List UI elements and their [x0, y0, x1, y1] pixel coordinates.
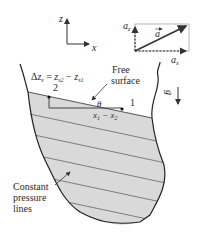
free-surface-label-line2: surface [111, 75, 140, 86]
z-axis-label: z [58, 13, 63, 24]
free-surface-annotation: Free surface [92, 64, 140, 100]
fluid-acceleration-diagram: z x az a ax g [0, 0, 199, 235]
point-2 [47, 95, 50, 98]
point-1 [120, 107, 123, 110]
x-axis-label: x [91, 42, 97, 53]
gravity-label: g [164, 90, 175, 95]
coordinate-axes: z x [58, 13, 97, 53]
free-surface-label-line1: Free [112, 64, 130, 75]
horizontal-distance-label: x1 − x2 [92, 110, 118, 121]
delta-z-equation: Δzs = zs2 − zs1 [31, 71, 83, 83]
point-2-label: 2 [53, 82, 58, 93]
theta-label: θ [97, 99, 102, 109]
acceleration-vector-label: a [155, 28, 160, 39]
az-label: az [123, 20, 131, 32]
gravity-vector: g [164, 87, 178, 104]
pressure-label-line3: lines [13, 203, 32, 214]
fluid-body [20, 62, 180, 235]
pressure-label-line1: Constant [13, 181, 49, 192]
ax-label: ax [171, 54, 179, 66]
point-1-label: 1 [130, 97, 135, 108]
acceleration-vector-diagram: az a ax [123, 20, 189, 66]
pressure-label-line2: pressure [13, 192, 47, 203]
